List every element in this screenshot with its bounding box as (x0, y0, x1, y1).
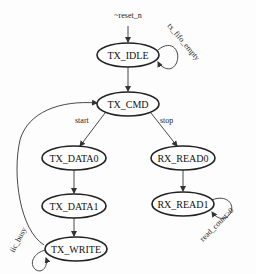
edge-tx-write-self-loop: iic_busy (8, 226, 47, 271)
edge-label-reset: ~reset_n (114, 11, 141, 20)
edge-label-start: start (75, 116, 90, 125)
node-rx-read1: RX_READ1 (152, 192, 214, 216)
node-label-tx-cmd: TX_CMD (107, 99, 148, 110)
node-label-rx-read0: RX_READ0 (157, 153, 208, 164)
state-diagram: ~reset_n tx_fifo_empty start stop iic_bu… (0, 0, 256, 274)
edge-tx-cmd-to-tx-data0: start (75, 113, 105, 146)
edge-reset-to-tx-idle: ~reset_n (114, 11, 141, 42)
edge-tx-idle-self-loop: tx_fifo_empty (158, 22, 202, 69)
edge-label-iic-busy: iic_busy (8, 226, 29, 254)
node-tx-data0: TX_DATA0 (42, 146, 106, 170)
node-tx-data1: TX_DATA1 (42, 194, 106, 218)
node-label-tx-data1: TX_DATA1 (49, 201, 98, 212)
node-label-tx-idle: TX_IDLE (107, 50, 148, 61)
node-rx-read0: RX_READ0 (151, 146, 215, 170)
edge-tx-cmd-to-rx-read0: stop (151, 113, 177, 146)
node-label-rx-read1: RX_READ1 (157, 199, 208, 210)
diagram-svg: ~reset_n tx_fifo_empty start stop iic_bu… (0, 0, 256, 274)
edge-label-tx-fifo-empty: tx_fifo_empty (165, 22, 201, 63)
node-tx-cmd: TX_CMD (97, 92, 159, 116)
node-tx-idle: TX_IDLE (97, 43, 159, 67)
node-label-tx-data0: TX_DATA0 (49, 153, 98, 164)
node-label-tx-write: TX_WRITE (51, 244, 101, 255)
edge-label-stop: stop (160, 116, 173, 125)
node-tx-write: TX_WRITE (45, 237, 107, 261)
